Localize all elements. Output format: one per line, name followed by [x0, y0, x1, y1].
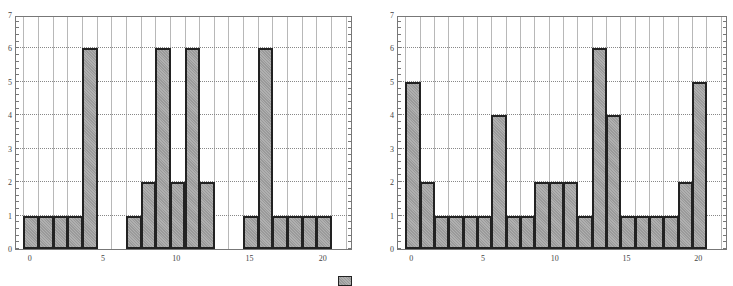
y-tick-label: 3: [384, 145, 394, 154]
y-tick-label: 7: [384, 11, 394, 20]
y-minor-tick: [398, 148, 401, 149]
bar: [635, 216, 650, 249]
y-minor-tick: [16, 134, 19, 135]
y-minor-tick: [16, 181, 19, 182]
y-minor-tick: [348, 74, 351, 75]
y-minor-tick: [723, 235, 726, 236]
y-minor-tick: [398, 108, 401, 109]
bar: [534, 182, 549, 249]
bar: [592, 48, 607, 249]
y-minor-tick: [348, 21, 351, 22]
y-minor-tick: [723, 201, 726, 202]
y-minor-tick: [723, 101, 726, 102]
x-tick-label: 5: [93, 254, 113, 263]
y-minor-tick: [723, 248, 726, 249]
y-minor-tick: [723, 208, 726, 209]
bar: [185, 48, 201, 249]
x-tick-label: 0: [401, 254, 421, 263]
y-minor-tick: [723, 141, 726, 142]
y-tick-label: 4: [2, 111, 12, 120]
y-minor-tick: [348, 208, 351, 209]
bar: [506, 216, 521, 249]
y-minor-tick: [348, 108, 351, 109]
y-minor-tick: [723, 195, 726, 196]
y-tick-label: 4: [384, 111, 394, 120]
y-minor-tick: [16, 21, 19, 22]
legend: [338, 276, 358, 286]
y-tick-label: 2: [2, 178, 12, 187]
x-tick-label: 15: [617, 254, 637, 263]
bar: [620, 216, 635, 249]
y-minor-tick: [16, 81, 19, 82]
y-minor-tick: [16, 47, 19, 48]
y-minor-tick: [723, 121, 726, 122]
y-minor-tick: [723, 215, 726, 216]
y-minor-tick: [723, 154, 726, 155]
y-minor-tick: [348, 168, 351, 169]
y-minor-tick: [398, 34, 401, 35]
bar: [491, 115, 506, 249]
y-minor-tick: [348, 241, 351, 242]
y-minor-tick: [398, 114, 401, 115]
bar: [405, 82, 420, 249]
bar: [434, 216, 449, 249]
bar: [563, 182, 578, 249]
bar: [155, 48, 171, 249]
y-minor-tick: [398, 134, 401, 135]
y-minor-tick: [348, 101, 351, 102]
y-minor-tick: [398, 61, 401, 62]
x-tick-label: 20: [688, 254, 708, 263]
y-minor-tick: [16, 201, 19, 202]
y-minor-tick: [398, 188, 401, 189]
grid-line-horizontal: [398, 81, 726, 82]
y-minor-tick: [348, 141, 351, 142]
y-tick-label: 0: [384, 245, 394, 254]
y-minor-tick: [723, 188, 726, 189]
y-minor-tick: [723, 108, 726, 109]
y-minor-tick: [398, 168, 401, 169]
y-minor-tick: [398, 141, 401, 142]
y-minor-tick: [348, 47, 351, 48]
y-minor-tick: [398, 88, 401, 89]
y-minor-tick: [348, 34, 351, 35]
bar: [287, 216, 303, 249]
y-minor-tick: [16, 61, 19, 62]
y-minor-tick: [16, 34, 19, 35]
y-minor-tick: [723, 148, 726, 149]
y-minor-tick: [16, 27, 19, 28]
bar: [692, 82, 707, 249]
y-minor-tick: [348, 235, 351, 236]
y-minor-tick: [723, 47, 726, 48]
grid-line-horizontal: [398, 148, 726, 149]
y-minor-tick: [348, 174, 351, 175]
y-minor-tick: [348, 134, 351, 135]
grid-line-horizontal: [16, 114, 351, 115]
plot-area: [15, 16, 352, 250]
y-minor-tick: [348, 94, 351, 95]
y-minor-tick: [348, 195, 351, 196]
y-minor-tick: [398, 248, 401, 249]
y-minor-tick: [348, 121, 351, 122]
y-minor-tick: [398, 215, 401, 216]
y-tick-label: 1: [384, 212, 394, 221]
y-minor-tick: [348, 88, 351, 89]
y-minor-tick: [16, 141, 19, 142]
bar: [258, 48, 274, 249]
y-minor-tick: [398, 174, 401, 175]
y-minor-tick: [348, 161, 351, 162]
y-minor-tick: [723, 74, 726, 75]
y-minor-tick: [398, 68, 401, 69]
x-tick-label: 0: [20, 254, 40, 263]
y-minor-tick: [398, 81, 401, 82]
bar: [141, 182, 157, 249]
y-minor-tick: [16, 168, 19, 169]
bar: [520, 216, 535, 249]
bar: [649, 216, 664, 249]
y-minor-tick: [723, 68, 726, 69]
y-minor-tick: [398, 241, 401, 242]
y-minor-tick: [398, 228, 401, 229]
y-tick-label: 0: [2, 245, 12, 254]
y-minor-tick: [723, 41, 726, 42]
y-minor-tick: [16, 195, 19, 196]
y-minor-tick: [16, 74, 19, 75]
